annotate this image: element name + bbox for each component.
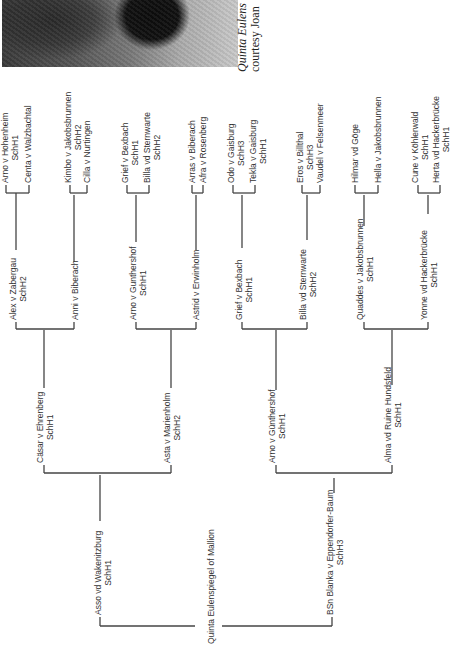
- pedigree-gen3-7: Yonne vd Hackerbrücke SchH1: [419, 230, 439, 320]
- pedigree-gen3-6: Quaddes v Jakobsbrunnen SchH1: [355, 218, 375, 320]
- pedigree-gen4-15: Herta vd Hackerbrücke SchH1: [431, 96, 451, 183]
- dog-reg: SchH1: [10, 113, 20, 183]
- dog-reg: SchH1: [393, 367, 403, 463]
- dog-name: Odo v Gaisburg: [226, 123, 236, 183]
- dog-reg: SchH3: [335, 490, 345, 615]
- dog-name: Arno v Gunthershof: [128, 246, 138, 320]
- subject-name: Quinta Eulenspiegel of Mallion: [206, 529, 216, 644]
- dog-reg: SchH3: [305, 132, 315, 184]
- pedigree-gen4-2: Kimbo v Jakobsbrunnen SchH2: [63, 92, 83, 183]
- dog-name: Grief v Bexbach: [234, 260, 244, 320]
- dog-name: Kimbo v Jakobsbrunnen: [63, 92, 73, 183]
- pedigree-gen4-12: Hilmar vd Göge: [350, 124, 360, 183]
- dog-name: Centa v Walzbachtal: [23, 105, 33, 183]
- dog-name: Alma vd Ruine Hundsfeld: [383, 367, 393, 463]
- dog-reg: SchH2: [152, 112, 162, 183]
- dog-reg: SchH2: [308, 249, 318, 320]
- dog-reg: SchH2: [18, 258, 28, 320]
- dog-name: Eros v Billthal: [295, 132, 305, 184]
- dog-name: Arno v Günthershof: [267, 389, 277, 463]
- dog-reg: SchH1: [441, 96, 451, 183]
- dog-name: Arno v Hohenheim: [0, 113, 10, 183]
- pedigree-gen3-5: Billa vd Sternwarte SchH2: [298, 249, 318, 320]
- dog-reg: SchH1: [130, 123, 140, 183]
- pedigree-gen4-4: Grief v Bexbach SchH1: [120, 123, 140, 183]
- dog-reg: SchH1: [244, 260, 254, 320]
- dog-reg: SchH1: [420, 112, 430, 183]
- pedigree-gen3-1: Anni v Biberach: [70, 260, 80, 320]
- dog-name: Cäsar v Ehrenberg: [35, 392, 45, 463]
- dog-reg: SchH1: [258, 120, 268, 183]
- dog-name: Herta vd Hackerbrücke: [431, 96, 441, 183]
- dog-name: Arras v Biberach: [187, 120, 197, 183]
- pedigree-gen4-13: Hella v Jakobsbrunnen: [373, 97, 383, 183]
- dog-name: BSn Blanka v Eppendorfer-Baum: [325, 490, 335, 615]
- pedigree-gen4-9: Tekla v Gaisburg SchH1: [248, 120, 268, 183]
- pedigree-dam: BSn Blanka v Eppendorfer-Baum SchH3: [325, 490, 345, 615]
- dog-reg: SchH1: [45, 392, 55, 463]
- dog-reg: SchH2: [172, 393, 182, 463]
- pedigree-gen4-6: Arras v Biberach: [187, 120, 197, 183]
- pedigree-gen3-2: Arno v Gunthershof SchH1: [128, 246, 148, 320]
- pedigree-gen3-3: Astrid v Erwinholm: [191, 250, 201, 320]
- pedigree-gen2-3: Alma vd Ruine Hundsfeld SchH1: [383, 367, 403, 463]
- dog-reg: SchH1: [277, 389, 287, 463]
- dog-name: Cune v Köhlerwald: [410, 112, 420, 183]
- pedigree-gen3-0: Alex v Zabergau SchH2: [8, 258, 28, 320]
- pedigree-gen4-14: Cune v Köhlerwald SchH1: [410, 112, 430, 183]
- dog-name: Billa vd Sternwarte: [298, 249, 308, 320]
- dog-name: Yonne vd Hackerbrücke: [419, 230, 429, 320]
- dog-name: Billa vd Sternwarte: [142, 112, 152, 183]
- pedigree-subject: Quinta Eulenspiegel of Mallion: [206, 529, 216, 644]
- pedigree-gen4-5: Billa vd Sternwarte SchH2: [142, 112, 162, 183]
- dog-reg: SchH1: [103, 531, 113, 615]
- pedigree-gen4-11: Vaudel v Felsenmeer: [315, 103, 325, 183]
- pedigree-gen4-1: Centa v Walzbachtal: [23, 105, 33, 183]
- pedigree-gen4-0: Arno v Hohenheim SchH1: [0, 113, 20, 183]
- dog-name: Hilmar vd Göge: [350, 124, 360, 183]
- dog-name: Tekla v Gaisburg: [248, 120, 258, 183]
- pedigree-gen4-7: Afra v Rosenberg: [198, 117, 208, 183]
- dog-name: Vaudel v Felsenmeer: [315, 103, 325, 183]
- pedigree-gen4-8: Odo v Gaisburg SchH3: [226, 123, 246, 183]
- dog-name: Grief v Bexbach: [120, 123, 130, 183]
- dog-reg: SchH1: [365, 218, 375, 320]
- dog-name: Asta v Marienholm: [162, 393, 172, 463]
- dog-name: Hella v Jakobsbrunnen: [373, 97, 383, 183]
- dog-name: Anni v Biberach: [70, 260, 80, 320]
- pedigree-sire: Asso vd Wakenitzburg SchH1: [93, 531, 113, 615]
- dog-reg: SchH3: [236, 123, 246, 183]
- dog-name: Alex v Zabergau: [8, 258, 18, 320]
- dog-reg: SchH1: [138, 246, 148, 320]
- pedigree-gen2-2: Arno v Günthershof SchH1: [267, 389, 287, 463]
- pedigree-gen3-4: Grief v Bexbach SchH1: [234, 260, 254, 320]
- dog-name: Quaddes v Jakobsbrunnen: [355, 218, 365, 320]
- dog-name: Cilla v Nurtingen: [82, 121, 92, 183]
- dog-name: Asso vd Wakenitzburg: [93, 531, 103, 615]
- dog-name: Astrid v Erwinholm: [191, 250, 201, 320]
- dog-name: Afra v Rosenberg: [198, 117, 208, 183]
- pedigree-gen2-1: Asta v Marienholm SchH2: [162, 393, 182, 463]
- dog-reg: SchH1: [429, 230, 439, 320]
- pedigree-gen4-3: Cilla v Nurtingen: [82, 121, 92, 183]
- pedigree-gen2-0: Cäsar v Ehrenberg SchH1: [35, 392, 55, 463]
- pedigree-gen4-10: Eros v Billthal SchH3: [295, 132, 315, 184]
